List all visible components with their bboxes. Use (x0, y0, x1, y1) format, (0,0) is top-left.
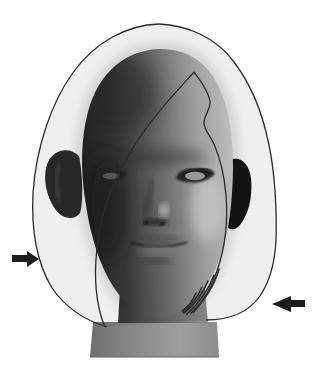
hairstyle-diagram (0, 0, 314, 370)
pedestal-base (90, 322, 219, 357)
pedestal-base-face (90, 322, 219, 357)
hairstyle-diagram-canvas (0, 0, 314, 370)
